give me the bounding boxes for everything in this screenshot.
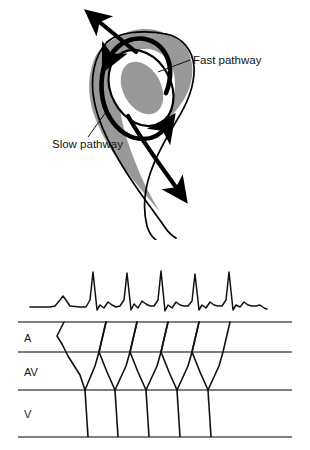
- av-node-reentry-anatomy: Fast pathway Slow pathway: [0, 0, 310, 240]
- av-conduction-beat-1: [62, 344, 85, 390]
- ecg-ladder-diagram: A AV V: [0, 240, 310, 450]
- tier-label-av: AV: [24, 366, 39, 378]
- tier-label-v: V: [24, 408, 32, 420]
- av-conduction-beat-5: [192, 322, 208, 390]
- ventricular-activation-beat-4: [177, 390, 180, 437]
- ventricular-activation-beat-3: [146, 390, 149, 437]
- ventricular-activation-beat-2: [115, 390, 118, 437]
- atrial-activation-beat-1: [57, 322, 64, 344]
- retrograde-av-limb-5: [208, 322, 230, 390]
- retrograde-av-limb-3: [146, 322, 168, 390]
- ecg-rhythm-strip: [30, 271, 267, 311]
- slow-pathway-label: Slow pathway: [52, 138, 123, 150]
- retrograde-av-limb-2: [115, 322, 137, 390]
- tier-label-a: A: [24, 332, 32, 344]
- fast-pathway-label: Fast pathway: [193, 54, 262, 66]
- ventricular-activation-beat-5: [208, 390, 211, 437]
- av-conduction-beat-4: [161, 322, 177, 390]
- ventricular-activation-beat-1: [85, 390, 88, 437]
- av-conduction-beat-2: [99, 322, 115, 390]
- retrograde-av-limb-4: [177, 322, 199, 390]
- figure-container: Fast pathway Slow pathway A AV V: [0, 0, 310, 450]
- av-conduction-beat-3: [130, 322, 146, 390]
